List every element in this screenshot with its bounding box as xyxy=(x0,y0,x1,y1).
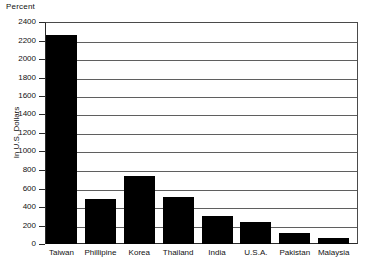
x-axis-label: Taiwan xyxy=(41,248,81,258)
y-tick-label: 2000 xyxy=(18,55,36,63)
y-tick-label: 0 xyxy=(32,240,36,248)
bar-slot xyxy=(318,22,349,244)
bar-slot xyxy=(202,22,233,244)
y-tick-label: 1800 xyxy=(18,74,36,82)
y-tick-mark xyxy=(39,78,45,79)
x-axis-label: Malaysia xyxy=(313,248,353,258)
y-tick-label: 600 xyxy=(23,185,36,193)
y-tick-label: 1400 xyxy=(18,110,36,118)
y-tick-mark xyxy=(39,189,45,190)
bar-slot xyxy=(163,22,194,244)
y-tick-label: 400 xyxy=(23,203,36,211)
x-axis-label: Phillipine xyxy=(80,248,120,258)
y-tick-mark xyxy=(39,226,45,227)
x-axis-label: U.S.A. xyxy=(236,248,276,258)
y-tick-mark xyxy=(39,114,45,115)
bar[interactable] xyxy=(85,199,116,244)
y-tick-mark xyxy=(39,151,45,152)
y-tick-mark xyxy=(39,170,45,171)
y-tick-mark xyxy=(39,244,45,245)
bars-layer xyxy=(46,22,357,244)
y-tick-label: 200 xyxy=(23,222,36,230)
x-axis-labels: TaiwanPhillipineKoreaThailandIndiaU.S.A.… xyxy=(46,248,357,262)
y-tick-label: 2400 xyxy=(18,18,36,26)
bar[interactable] xyxy=(240,222,271,244)
bar-slot xyxy=(240,22,271,244)
y-tick-mark xyxy=(39,41,45,42)
bar[interactable] xyxy=(318,238,349,244)
bar[interactable] xyxy=(279,233,310,244)
y-tick-mark xyxy=(39,133,45,134)
bar[interactable] xyxy=(124,176,155,244)
bar[interactable] xyxy=(163,197,194,244)
y-tick-label: 1000 xyxy=(18,147,36,155)
bar[interactable] xyxy=(46,35,77,244)
bar[interactable] xyxy=(202,216,233,244)
x-axis-label: Korea xyxy=(119,248,159,258)
chart-unit-label: Percent xyxy=(6,2,35,11)
bar-slot xyxy=(85,22,116,244)
y-tick-label: 2200 xyxy=(18,37,36,45)
bar-slot xyxy=(279,22,310,244)
bar-slot xyxy=(124,22,155,244)
y-tick-mark xyxy=(39,96,45,97)
x-axis-label: Thailand xyxy=(158,248,198,258)
y-tick-label: 1200 xyxy=(18,129,36,137)
bar-slot xyxy=(46,22,77,244)
x-axis-label: India xyxy=(197,248,237,258)
y-tick-mark xyxy=(39,22,45,23)
y-tick-mark xyxy=(39,59,45,60)
y-tick-mark xyxy=(39,207,45,208)
y-tick-label: 1600 xyxy=(18,92,36,100)
x-axis-label: Pakistan xyxy=(275,248,315,258)
y-tick-label: 800 xyxy=(23,166,36,174)
